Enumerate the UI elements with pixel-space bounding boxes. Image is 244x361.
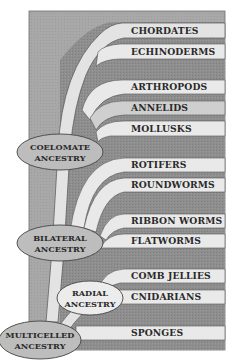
multicelled-label-line1: MULTICELLED xyxy=(6,330,75,340)
group-label-mollusks: MOLLUSKS xyxy=(131,123,192,134)
phylogenetic-tree-diagram: CHORDATES ECHINODERMS ARTHROPODS ANNELID… xyxy=(0,0,244,361)
group-label-annelids: ANNELIDS xyxy=(130,102,188,113)
bilateral-label-line2: ANCESTRY xyxy=(34,244,86,254)
coelomate-label-line1: COELOMATE xyxy=(30,142,90,152)
group-label-rotifers: ROTIFERS xyxy=(131,159,187,170)
group-label-chordates: CHORDATES xyxy=(131,25,199,36)
coelomate-label-line2: ANCESTRY xyxy=(34,153,86,163)
group-label-flatworms: FLATWORMS xyxy=(131,235,201,246)
bilateral-label-line1: BILATERAL xyxy=(33,233,87,243)
group-label-cnidarians: CNIDARIANS xyxy=(131,291,201,302)
group-label-ribbon-worms: RIBBON WORMS xyxy=(131,215,222,226)
group-label-roundworms: ROUNDWORMS xyxy=(131,179,215,190)
ancestor-node-multicelled: MULTICELLED ANCESTRY xyxy=(0,321,81,359)
group-label-sponges: SPONGES xyxy=(131,327,183,338)
ancestor-node-coelomate: COELOMATE ANCESTRY xyxy=(17,134,103,170)
ancestor-node-radial: RADIAL ANCESTRY xyxy=(57,281,123,315)
group-label-arthropods: ARTHROPODS xyxy=(130,81,208,92)
radial-label-line1: RADIAL xyxy=(72,288,108,298)
ancestor-node-bilateral: BILATERAL ANCESTRY xyxy=(17,225,103,261)
radial-label-line2: ANCESTRY xyxy=(64,299,116,309)
group-label-comb-jellies: COMB JELLIES xyxy=(131,270,211,281)
multicelled-label-line2: ANCESTRY xyxy=(14,341,66,351)
group-label-echinoderms: ECHINODERMS xyxy=(131,46,215,57)
